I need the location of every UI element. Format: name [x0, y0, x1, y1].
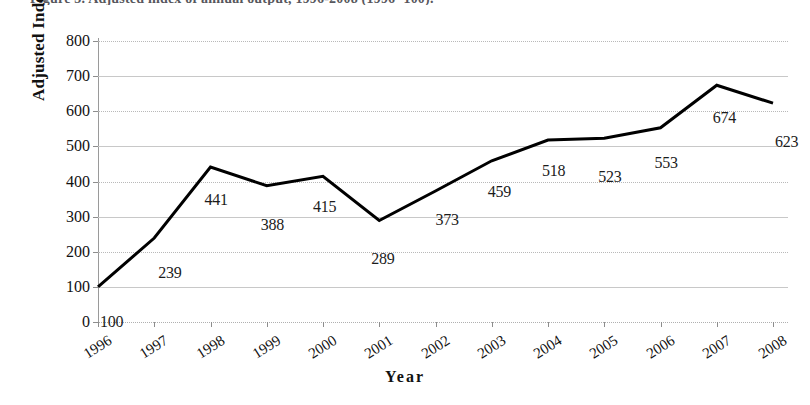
y-tick-label: 500 [30, 138, 90, 154]
x-tick [492, 322, 493, 327]
figure-caption-cutoff: Figure 3. Adjusted index of annual outpu… [30, 0, 790, 5]
plot-area: 0100200300400500600700800 19961997199819… [98, 41, 788, 322]
x-tick-label: 2002 [403, 332, 453, 372]
y-tick-label: 600 [30, 103, 90, 119]
y-tick-label: 200 [30, 244, 90, 260]
x-tick-label: 1998 [178, 332, 228, 372]
x-tick [98, 322, 99, 327]
x-tick-label: 2004 [515, 332, 565, 372]
data-point-label: 674 [713, 109, 736, 127]
series-line [98, 41, 788, 322]
data-point-label: 239 [158, 264, 181, 282]
data-point-label: 373 [436, 211, 459, 229]
x-tick [717, 322, 718, 327]
x-tick [154, 322, 155, 327]
data-point-label: 623 [775, 133, 798, 151]
x-tick-label: 2008 [740, 332, 790, 372]
y-tick-label: 300 [30, 209, 90, 225]
data-point-label: 415 [313, 198, 336, 216]
series-polyline [98, 85, 773, 287]
x-tick [436, 322, 437, 327]
data-point-label: 459 [488, 183, 511, 201]
x-tick-label: 2005 [572, 332, 622, 372]
x-tick-label: 2000 [290, 332, 340, 372]
x-tick [323, 322, 324, 327]
data-point-label: 523 [598, 168, 621, 186]
x-axis-title: Year [0, 368, 810, 386]
data-point-label: 518 [542, 162, 565, 180]
x-tick [211, 322, 212, 327]
x-tick-label: 1997 [122, 332, 172, 372]
y-tick-label: 400 [30, 174, 90, 190]
x-tick-label: 2007 [684, 332, 734, 372]
x-tick [548, 322, 549, 327]
x-tick-label: 1996 [65, 332, 115, 372]
x-axis-line [98, 322, 788, 323]
x-tick-label: 1999 [234, 332, 284, 372]
x-tick-label: 2001 [347, 332, 397, 372]
data-point-label: 553 [655, 154, 678, 172]
data-point-label: 289 [371, 250, 394, 268]
data-point-label: 100 [100, 313, 123, 331]
x-tick-label: 2003 [459, 332, 509, 372]
data-point-label: 388 [261, 216, 284, 234]
y-axis-title: Adjusted Index (1996=100) [29, 0, 49, 101]
x-tick [773, 322, 774, 327]
x-tick [267, 322, 268, 327]
y-tick-label: 0 [30, 314, 90, 330]
data-point-label: 441 [205, 191, 228, 209]
x-tick [604, 322, 605, 327]
x-tick-label: 2006 [628, 332, 678, 372]
chart-figure: Figure 3. Adjusted index of annual outpu… [0, 0, 810, 405]
x-tick [379, 322, 380, 327]
x-tick [661, 322, 662, 327]
y-tick-label: 100 [30, 279, 90, 295]
